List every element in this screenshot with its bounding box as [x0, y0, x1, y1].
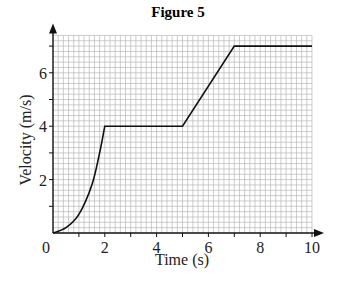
x-tick-label: 0 [42, 239, 50, 256]
ticks: 0246810246 [39, 46, 320, 256]
x-axis-label: Time (s) [155, 251, 209, 269]
grid [53, 35, 312, 233]
y-tick-label: 6 [39, 65, 47, 82]
y-tick-label: 4 [39, 118, 47, 135]
velocity-time-chart: Figure 5 0246810246 Time (s) Velocity (m… [0, 0, 342, 283]
x-axis-arrow-icon [314, 229, 324, 237]
x-tick-label: 2 [101, 239, 109, 256]
x-tick-label: 8 [256, 239, 264, 256]
x-tick-label: 10 [304, 239, 320, 256]
y-tick-label: 2 [39, 172, 47, 189]
y-axis-arrow-icon [49, 23, 57, 33]
chart-title: Figure 5 [151, 4, 204, 20]
axes [49, 23, 324, 237]
y-axis-label: Velocity (m/s) [17, 94, 35, 185]
